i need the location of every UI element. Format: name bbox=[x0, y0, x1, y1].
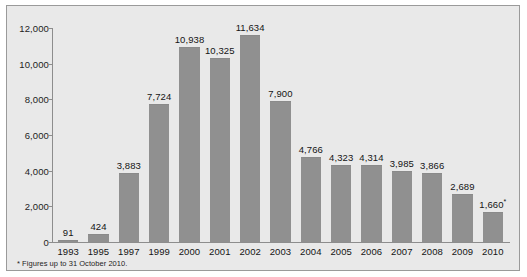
bar-group: 10,938 bbox=[179, 28, 199, 242]
bar-value-label: 2,689 bbox=[450, 181, 474, 192]
bar-group: 3,883 bbox=[119, 28, 139, 242]
bar-value-label: 3,866 bbox=[420, 160, 444, 171]
x-axis-tick-label: 2010 bbox=[478, 246, 508, 257]
bar-group: 10,325 bbox=[210, 28, 230, 242]
bar bbox=[361, 165, 381, 242]
bar bbox=[270, 101, 290, 242]
bar-group: 4,314 bbox=[361, 28, 381, 242]
chart-figure: 02,0004,0006,0008,00010,00012,000 914243… bbox=[0, 0, 527, 277]
y-axis-tick-label: 6,000 bbox=[25, 130, 49, 141]
bar-value-label: 4,314 bbox=[359, 152, 383, 163]
bar-group: 3,985 bbox=[392, 28, 412, 242]
bar bbox=[240, 35, 260, 242]
y-axis-tick-mark bbox=[48, 64, 52, 65]
chart-footnote: * Figures up to 31 October 2010. bbox=[17, 259, 127, 268]
x-axis-tick-label: 2005 bbox=[326, 246, 356, 257]
bar bbox=[483, 212, 503, 242]
bar-group: 91 bbox=[58, 28, 78, 242]
bar-group: 1,660* bbox=[483, 28, 503, 242]
bar-group: 4,766 bbox=[301, 28, 321, 242]
bar-value-label: 4,766 bbox=[299, 144, 323, 155]
x-axis-tick-label: 2000 bbox=[174, 246, 204, 257]
bar bbox=[422, 173, 442, 242]
x-axis-tick-label: 2002 bbox=[235, 246, 265, 257]
bar-value-label: 4,323 bbox=[329, 152, 353, 163]
x-axis-tick-label: 2009 bbox=[447, 246, 477, 257]
bar bbox=[210, 58, 230, 242]
y-axis-tick-mark bbox=[48, 28, 52, 29]
y-axis-tick-label: 2,000 bbox=[25, 201, 49, 212]
y-axis-tick-mark bbox=[48, 206, 52, 207]
footnote-marker: * bbox=[504, 198, 507, 205]
bar bbox=[392, 171, 412, 242]
bar bbox=[452, 194, 472, 242]
x-axis-tick-label: 1993 bbox=[53, 246, 83, 257]
y-axis-tick-label: 12,000 bbox=[19, 23, 49, 34]
bar-group: 7,724 bbox=[149, 28, 169, 242]
bar-value-label: 424 bbox=[90, 221, 106, 232]
bar-group: 3,866 bbox=[422, 28, 442, 242]
x-axis-tick-label: 2004 bbox=[296, 246, 326, 257]
bar-value-label: 3,883 bbox=[117, 160, 141, 171]
bar-value-label: 10,325 bbox=[205, 45, 235, 56]
bar bbox=[88, 234, 108, 242]
bar-group: 424 bbox=[88, 28, 108, 242]
bar-value-label: 11,634 bbox=[236, 22, 265, 33]
chart-panel: 02,0004,0006,0008,00010,00012,000 914243… bbox=[6, 5, 520, 271]
bar-group: 2,689 bbox=[452, 28, 472, 242]
bar-value-label: 10,938 bbox=[175, 34, 205, 45]
x-axis-line bbox=[52, 242, 510, 243]
y-axis-tick-mark bbox=[48, 171, 52, 172]
bar-value-label: 91 bbox=[63, 227, 74, 238]
bar bbox=[58, 240, 78, 242]
plot-area: 914243,8837,72410,93810,32511,6347,9004,… bbox=[53, 28, 508, 242]
y-axis: 02,0004,0006,0008,00010,00012,000 bbox=[7, 6, 49, 272]
y-axis-tick-label: 10,000 bbox=[19, 58, 49, 69]
x-axis-tick-label: 1997 bbox=[114, 246, 144, 257]
bar-value-label: 3,985 bbox=[390, 158, 414, 169]
y-axis-tick-label: 8,000 bbox=[25, 94, 49, 105]
y-axis-tick-mark bbox=[48, 135, 52, 136]
bar-value-label: 1,660* bbox=[479, 198, 506, 210]
bar-group: 7,900 bbox=[270, 28, 290, 242]
bar bbox=[301, 157, 321, 242]
x-axis-tick-label: 2007 bbox=[387, 246, 417, 257]
bar bbox=[331, 165, 351, 242]
bar-group: 4,323 bbox=[331, 28, 351, 242]
bar bbox=[149, 104, 169, 242]
x-axis-tick-label: 2008 bbox=[417, 246, 447, 257]
x-axis-tick-label: 1995 bbox=[83, 246, 113, 257]
x-axis-tick-label: 2001 bbox=[205, 246, 235, 257]
bar-value-label: 7,724 bbox=[147, 91, 171, 102]
bar-group: 11,634 bbox=[240, 28, 260, 242]
bar bbox=[119, 173, 139, 242]
bar bbox=[179, 47, 199, 242]
x-axis-tick-label: 2003 bbox=[265, 246, 295, 257]
y-axis-tick-mark bbox=[48, 242, 52, 243]
x-axis-tick-label: 1999 bbox=[144, 246, 174, 257]
y-axis-tick-label: 4,000 bbox=[25, 165, 49, 176]
y-axis-tick-mark bbox=[48, 99, 52, 100]
x-axis-tick-label: 2006 bbox=[356, 246, 386, 257]
bar-value-label: 7,900 bbox=[268, 88, 292, 99]
